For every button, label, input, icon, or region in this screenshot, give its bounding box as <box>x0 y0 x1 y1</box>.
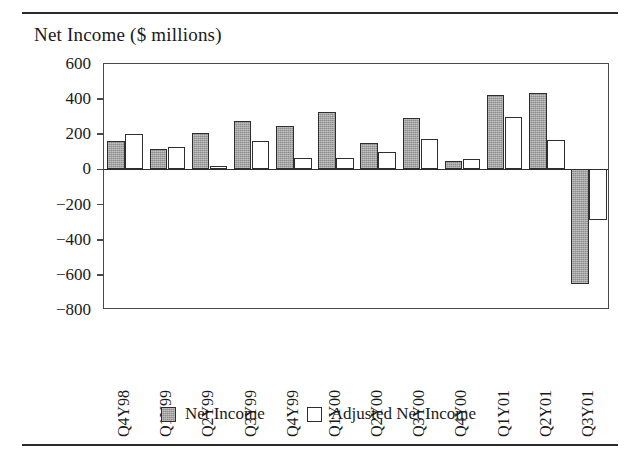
bar-q3y00-net-income <box>403 118 421 169</box>
bar-q4y98-net-income <box>107 141 125 169</box>
bar-q4y00-net-income <box>445 161 463 170</box>
bar-q1y00-adjusted-net-income <box>336 158 354 169</box>
y-axis-tick-label: 400 <box>25 90 91 107</box>
legend-swatch-icon <box>307 407 322 422</box>
x-axis-label-q1y00: Q1Y00 <box>327 390 343 466</box>
bar-q1y99-net-income <box>150 149 168 169</box>
x-axis-label-q3y99: Q3Y99 <box>243 390 259 466</box>
legend-entry-adjusted-net-income: Adjusted Net Income <box>307 404 476 424</box>
legend-label: Adjusted Net Income <box>331 404 476 424</box>
y-axis-tick-label: −200 <box>25 196 91 213</box>
bar-q3y01-net-income <box>571 169 589 283</box>
bar-q2y01-adjusted-net-income <box>547 140 565 169</box>
x-axis-label-q1y01: Q1Y01 <box>496 390 512 466</box>
x-axis-label-q3y00: Q3Y00 <box>411 390 427 466</box>
bar-q4y00-adjusted-net-income <box>463 159 481 170</box>
bar-q3y01-adjusted-net-income <box>589 169 607 219</box>
plot-area <box>103 63 609 309</box>
bar-q3y00-adjusted-net-income <box>421 139 439 170</box>
legend-label: Net Income <box>185 404 265 424</box>
bar-q4y98-adjusted-net-income <box>125 134 143 169</box>
bars-layer <box>104 64 608 308</box>
y-axis-tick <box>97 98 104 100</box>
bottom-rule <box>22 444 618 446</box>
bar-q4y99-net-income <box>276 126 294 169</box>
y-axis-tick-label: −600 <box>25 266 91 283</box>
y-axis-tick-label: 200 <box>25 125 91 142</box>
bar-q3y99-adjusted-net-income <box>252 141 270 169</box>
x-axis-label-q1y99: Q1Y99 <box>158 390 174 466</box>
bar-q2y00-adjusted-net-income <box>378 152 396 170</box>
y-axis-tick <box>97 204 104 206</box>
top-rule <box>22 12 618 14</box>
legend-swatch-icon <box>161 407 176 422</box>
y-axis-tick-label: −800 <box>25 301 91 318</box>
x-axis-label-q3y01: Q3Y01 <box>580 390 596 466</box>
y-axis-tick <box>97 169 104 171</box>
figure-container: Net Income ($ millions) 6004002000−200−4… <box>0 0 637 466</box>
y-axis-tick <box>97 133 104 135</box>
x-axis-label-q4y98: Q4Y98 <box>116 390 132 466</box>
bar-q4y99-adjusted-net-income <box>294 158 312 169</box>
bar-q2y99-adjusted-net-income <box>210 166 228 170</box>
x-axis-label-q2y99: Q2Y99 <box>200 390 216 466</box>
x-axis-labels: Q4Y98Q1Y99Q2Y99Q3Y99Q4Y99Q1Y00Q2Y00Q3Y00… <box>103 312 609 396</box>
x-axis-label-q2y01: Q2Y01 <box>538 390 554 466</box>
bar-q1y00-net-income <box>318 112 336 169</box>
x-axis-label-q4y00: Q4Y00 <box>453 390 469 466</box>
bar-q2y01-net-income <box>529 93 547 169</box>
bar-q1y99-adjusted-net-income <box>168 147 186 169</box>
legend-entry-net-income: Net Income <box>161 404 265 424</box>
y-axis-tick <box>97 274 104 276</box>
bar-q2y99-net-income <box>192 133 210 170</box>
y-axis-tick-label: 600 <box>25 55 91 72</box>
y-axis-tick <box>97 239 104 241</box>
bar-q2y00-net-income <box>360 143 378 169</box>
x-axis-label-q4y99: Q4Y99 <box>285 390 301 466</box>
y-axis-tick-label: −400 <box>25 231 91 248</box>
bar-q1y01-net-income <box>487 95 505 170</box>
y-axis-tick-label: 0 <box>25 160 91 177</box>
chart-legend: Net IncomeAdjusted Net Income <box>0 404 637 424</box>
chart-title: Net Income ($ millions) <box>34 24 222 46</box>
bar-q1y01-adjusted-net-income <box>505 117 523 170</box>
bar-q3y99-net-income <box>234 121 252 169</box>
x-axis-label-q2y00: Q2Y00 <box>369 390 385 466</box>
